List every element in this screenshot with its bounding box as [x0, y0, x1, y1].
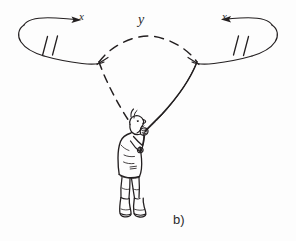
left-loop: [19, 17, 104, 65]
right-tip-label-x: x: [222, 10, 227, 22]
arc-label-y: y: [138, 12, 144, 28]
left-break-marks: [43, 36, 58, 56]
figure-caption: b): [173, 212, 185, 227]
left-line: [99, 62, 129, 121]
right-line: [145, 62, 198, 133]
right-break-marks: [234, 36, 249, 56]
left-tip-label-x: x: [79, 10, 84, 22]
hand-drawn-diagram: [0, 0, 296, 241]
right-loop: [192, 16, 277, 64]
figure-panel: y x x b): [0, 0, 296, 241]
top-arc: [99, 36, 197, 62]
right-junction: [188, 58, 199, 65]
person: [118, 109, 148, 217]
